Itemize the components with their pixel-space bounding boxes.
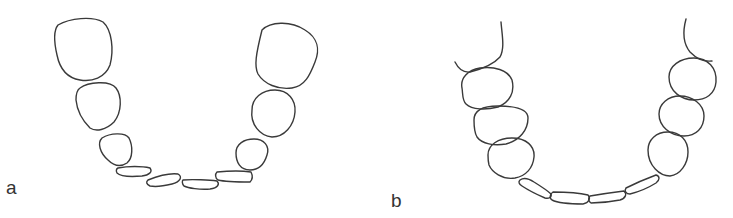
- tooth-b-incisor-4: [625, 175, 659, 194]
- panel-label-b: b: [391, 191, 402, 210]
- tooth-a-left-3: [100, 134, 132, 166]
- tooth-b-left-1: [462, 68, 513, 109]
- tooth-a-incisor-2: [147, 174, 181, 187]
- tooth-b-right-1: [669, 58, 716, 100]
- tooth-b-incisor-1: [519, 178, 551, 198]
- tooth-a-left-2: [76, 83, 120, 130]
- dental-arch-figure: a b: [0, 0, 733, 218]
- panel-a-arch: [55, 18, 318, 189]
- tooth-b-incisor-3: [589, 191, 626, 203]
- tooth-a-right-3: [236, 139, 268, 170]
- tooth-b-right-3: [648, 132, 688, 176]
- tooth-a-left-1: [55, 18, 112, 80]
- tooth-a-right-1: [256, 23, 318, 88]
- tooth-b-incisor-2: [550, 192, 589, 204]
- gum-line-right: [684, 19, 712, 61]
- panel-label-a: a: [6, 178, 17, 197]
- tooth-a-incisor-1: [116, 167, 151, 177]
- tooth-a-incisor-3: [182, 180, 218, 190]
- tooth-b-right-2: [659, 96, 704, 136]
- gum-line-left: [455, 22, 503, 72]
- tooth-a-right-2: [252, 90, 295, 137]
- tooth-a-incisor-4: [216, 171, 252, 182]
- panel-b-arch: [455, 19, 716, 204]
- dental-arch-drawing: [0, 0, 733, 218]
